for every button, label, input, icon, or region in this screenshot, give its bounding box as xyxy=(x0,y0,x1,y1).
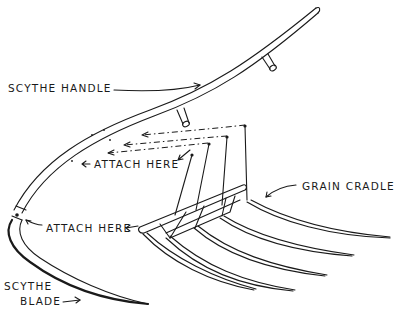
handle-grip-lower xyxy=(177,108,190,128)
scythe-cradle-diagram: SCYTHE HANDLE ATTACH HERE ATTACH HERE GR… xyxy=(0,0,394,320)
scythe-handle xyxy=(12,7,320,220)
grain-cradle xyxy=(139,185,247,238)
attach-here-upper-label: ATTACH HERE xyxy=(94,158,179,170)
diagram-drawing: SCYTHE HANDLE ATTACH HERE ATTACH HERE GR… xyxy=(0,0,394,320)
grain-cradle-label: GRAIN CRADLE xyxy=(302,180,394,192)
cradle-fingers xyxy=(143,200,390,291)
label-attach-here-lower: ATTACH HERE xyxy=(26,220,138,234)
label-grain-cradle: GRAIN CRADLE xyxy=(266,180,394,197)
attach-here-lower-label: ATTACH HERE xyxy=(46,222,131,234)
label-attach-here-upper: ATTACH HERE xyxy=(82,150,190,170)
scythe-blade-label-line2: BLADE xyxy=(20,295,61,307)
label-scythe-handle: SCYTHE HANDLE xyxy=(8,82,200,94)
scythe-blade-label-line1: SCYTHE xyxy=(4,280,52,292)
scythe-handle-label: SCYTHE HANDLE xyxy=(8,82,112,94)
